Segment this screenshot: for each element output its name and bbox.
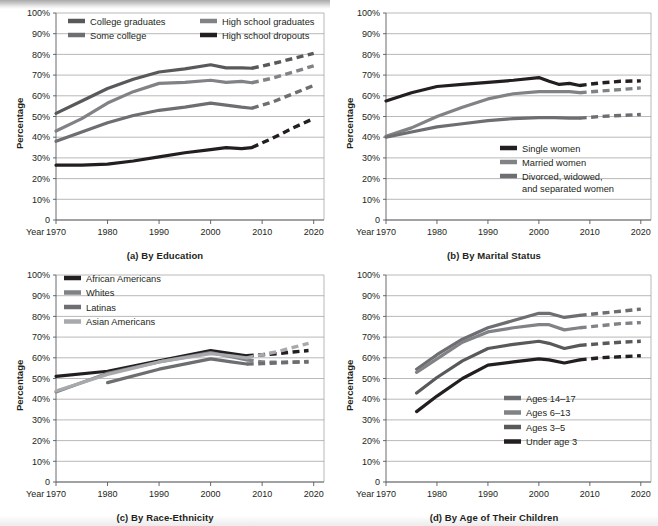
legend-label: and separated women	[522, 184, 614, 194]
y-axis-tick-label: 60%	[32, 353, 50, 363]
legend-swatch	[504, 396, 521, 401]
legend-a: College graduatesHigh school graduatesSo…	[68, 17, 315, 41]
y-axis-tick-label: 50%	[362, 374, 380, 384]
y-axis-tick-label: 60%	[362, 91, 380, 101]
x-axis-tick-label: 2020	[631, 489, 651, 499]
x-axis-tick-label: 1970	[46, 489, 66, 499]
legend-swatch	[500, 174, 517, 179]
series-projection-d-0	[580, 309, 641, 315]
y-axis-title: Percentage	[344, 359, 355, 410]
legend-d: Ages 14–17Ages 6–13Ages 3–5Under age 3	[504, 394, 577, 448]
panel-caption-c: (c) By Race-Ethnicity	[0, 512, 330, 523]
y-axis-tick-label: 20%	[362, 436, 380, 446]
legend-label: Under age 3	[526, 437, 577, 447]
x-axis-tick-label: 1980	[427, 227, 447, 237]
legend-swatch	[500, 146, 517, 151]
legend-label: Married women	[522, 158, 586, 168]
y-axis-tick-label: 40%	[32, 132, 50, 142]
legend-swatch	[504, 439, 521, 444]
y-axis-tick-label: 0	[375, 477, 380, 487]
series-projection-b-1	[580, 88, 641, 93]
y-axis-title: Percentage	[14, 359, 25, 410]
x-axis-tick-label: 2000	[529, 227, 549, 237]
chart-panel-c: 010%20%30%40%50%60%70%80%90%100%19701980…	[0, 262, 330, 524]
x-axis-tick-label: 1990	[478, 489, 498, 499]
y-axis-tick-label: 90%	[32, 291, 50, 301]
x-axis-tick-label: 1970	[376, 227, 396, 237]
series-line-b-0	[386, 78, 580, 101]
x-axis-tick-label: 2000	[201, 227, 221, 237]
series-projection-a-0	[252, 53, 314, 68]
series-line-d-3	[417, 359, 580, 412]
legend-label: Single women	[522, 144, 580, 154]
y-axis-tick-label: 0	[375, 215, 380, 225]
y-axis-tick-label: 90%	[32, 29, 50, 39]
x-axis-tick-label: 1980	[427, 489, 447, 499]
y-axis-tick-label: 30%	[32, 153, 50, 163]
y-axis-tick-label: 0	[45, 477, 50, 487]
y-axis-tick-label: 0	[45, 215, 50, 225]
y-axis-tick-label: 70%	[32, 70, 50, 80]
x-axis-name-label: Year	[356, 489, 374, 499]
y-axis-title: Percentage	[14, 97, 25, 148]
y-axis-tick-label: 10%	[362, 195, 380, 205]
series-projection-d-2	[580, 341, 641, 345]
y-axis-tick-label: 40%	[362, 394, 380, 404]
series-projection-a-3	[252, 119, 314, 148]
y-axis-tick-label: 20%	[32, 436, 50, 446]
y-axis-tick-label: 70%	[362, 70, 380, 80]
series-projection-a-1	[252, 66, 314, 83]
series-line-b-1	[386, 92, 580, 137]
legend-swatch	[64, 276, 81, 281]
y-axis-tick-label: 90%	[362, 29, 380, 39]
y-axis-tick-label: 90%	[362, 291, 380, 301]
y-axis-tick-label: 80%	[32, 312, 50, 322]
x-axis-tick-label: 2010	[580, 489, 600, 499]
x-axis-name-label: Year	[356, 227, 374, 237]
legend-swatch	[64, 319, 81, 324]
legend-swatch	[200, 33, 217, 38]
y-axis-tick-label: 80%	[362, 312, 380, 322]
legend-label: High school dropouts	[222, 31, 310, 41]
legend-c: African AmericansWhitesLatinasAsian Amer…	[64, 274, 161, 328]
y-axis-tick-label: 100%	[357, 270, 380, 280]
legend-label: African Americans	[86, 274, 161, 284]
y-axis-tick-label: 10%	[362, 457, 380, 467]
x-axis-name-label: Year	[26, 227, 44, 237]
y-axis-tick-label: 80%	[32, 50, 50, 60]
series-projection-c-2	[247, 362, 309, 364]
legend-label: Latinas	[86, 303, 116, 313]
series-line-a-2	[56, 103, 252, 141]
x-axis-tick-label: 1970	[376, 489, 396, 499]
x-axis-tick-label: 2000	[201, 489, 221, 499]
x-axis-tick-label: 1990	[149, 489, 169, 499]
x-axis-tick-label: 1980	[98, 489, 118, 499]
y-axis-tick-label: 40%	[32, 394, 50, 404]
x-axis-tick-label: 2020	[304, 227, 324, 237]
y-axis-tick-label: 60%	[362, 353, 380, 363]
legend-label: Asian Americans	[86, 317, 156, 327]
y-axis-tick-label: 10%	[32, 457, 50, 467]
x-axis-tick-label: 2020	[304, 489, 324, 499]
legend-swatch	[504, 410, 521, 415]
legend-label: Ages 6–13	[526, 408, 570, 418]
legend-swatch	[64, 290, 81, 295]
x-axis-tick-label: 1990	[149, 227, 169, 237]
legend-label: Whites	[86, 288, 115, 298]
y-axis-tick-label: 20%	[32, 174, 50, 184]
legend-label: Divorced, widowed,	[522, 172, 603, 182]
series-projection-a-2	[252, 85, 314, 108]
y-axis-tick-label: 100%	[357, 8, 380, 18]
chart-panel-a: 010%20%30%40%50%60%70%80%90%100%19701980…	[0, 0, 330, 262]
legend-swatch	[68, 19, 85, 24]
y-axis-tick-label: 50%	[32, 374, 50, 384]
panel-caption-a: (a) By Education	[0, 250, 330, 261]
legend-swatch	[64, 305, 81, 310]
x-axis-tick-label: 2020	[631, 227, 651, 237]
series-line-d-2	[417, 341, 580, 393]
legend-swatch	[504, 425, 521, 430]
y-axis-tick-label: 70%	[362, 332, 380, 342]
series-projection-c-0	[247, 351, 309, 356]
y-axis-tick-label: 10%	[32, 195, 50, 205]
legend-swatch	[68, 33, 85, 38]
